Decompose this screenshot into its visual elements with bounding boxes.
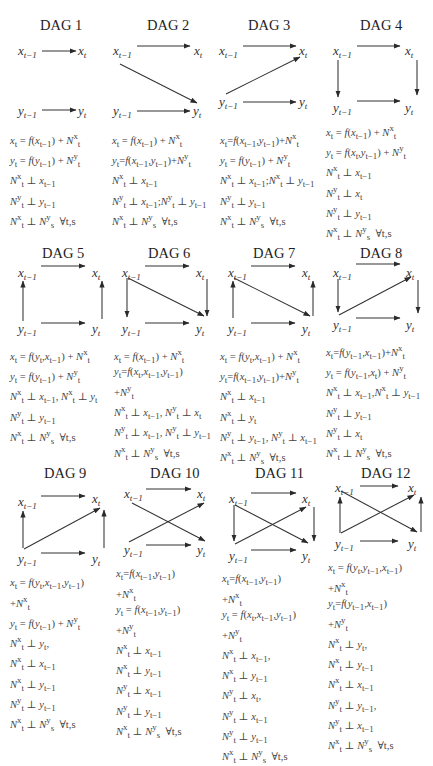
- dag-node-x-t: xt: [194, 44, 202, 60]
- equation-line: Nxt ⊥ xt−1: [10, 170, 80, 190]
- dag-title: DAG 6: [148, 245, 190, 262]
- node-subscript: t: [305, 101, 308, 111]
- dag-node-y-prev: yt−1: [333, 101, 352, 117]
- dag-node-y-prev: yt−1: [335, 537, 354, 553]
- equation-line: xt=f(xt−1,yt−1)+Nxt: [220, 130, 315, 150]
- equation-line: Nxt ⊥ yt−1: [328, 654, 402, 674]
- arrow-icon-x-prev-to-y-t: [235, 505, 308, 543]
- node-subscript: t−1: [341, 543, 354, 553]
- equation-line: xt=f(yt−1,xt−1)+Nxt: [326, 342, 420, 362]
- node-subscript: t−1: [234, 328, 247, 338]
- node-subscript: t: [98, 558, 101, 568]
- dag-title: DAG 7: [253, 245, 295, 262]
- node-subscript: t: [305, 50, 308, 60]
- equation-line: Nyt ⊥ xt−1: [222, 706, 296, 726]
- equation-line: yt=f(yt−1,xt−1): [328, 598, 402, 614]
- dag-node-x-prev: xt−1: [333, 44, 352, 60]
- dag-node-y-prev: yt−1: [18, 104, 37, 120]
- dag-node-x-t: xt: [302, 492, 310, 508]
- structural-equations: xt = f(yt,yt−1,xt−1)+Nxtyt=f(yt−1,xt−1)+…: [328, 562, 402, 755]
- equation-line: Nxt ⊥ yt−1: [116, 660, 182, 680]
- node-subscript: t−1: [339, 272, 352, 282]
- node-subscript: t: [98, 272, 101, 282]
- node-subscript: t: [308, 272, 311, 282]
- arrow-icon-x-prev-to-y-t: [120, 64, 197, 103]
- node-subscript: t−1: [119, 110, 132, 120]
- equation-line: xt = f(xt−1) + Nxt: [112, 130, 207, 150]
- dag-node-x-prev: xt−1: [124, 487, 143, 503]
- dag-node-y-t: yt: [299, 95, 307, 111]
- equation-line: xt = f(yt,xt−1) + Nxt: [10, 346, 97, 366]
- dag-title: DAG 10: [150, 465, 200, 482]
- equation-line: yt=f(xt,xt−1,yt−1): [114, 366, 211, 382]
- equation-line: yt = f(yt−1) + Nyt: [10, 366, 97, 386]
- dag-node-y-t: yt: [193, 104, 201, 120]
- dag-node-x-t: xt: [196, 266, 204, 282]
- equation-line: Nxt ⊥ Nys ∀t,s: [326, 223, 406, 243]
- node-subscript: t−1: [24, 558, 37, 568]
- dag-node-x-prev: xt−1: [18, 44, 37, 60]
- dag-node-x-t: xt: [408, 481, 416, 497]
- equation-line: Nxt ⊥ Nys ∀t,s: [10, 427, 97, 447]
- dag-title: DAG 11: [255, 465, 304, 482]
- equation-line: Nyt ⊥ yt−1, Nyt ⊥ xt−1: [220, 427, 317, 447]
- equation-line: Nyt ⊥ xt: [326, 423, 420, 443]
- equation-line: Nxt ⊥ yt−1: [222, 665, 296, 685]
- dag-node-y-prev: yt−1: [229, 549, 248, 565]
- arrow-icon-y-prev-to-x-t: [226, 57, 300, 94]
- arrow-icon-y-prev-to-x-t: [339, 277, 411, 315]
- equation-line: Nxt ⊥ Nys ∀t,s: [112, 211, 207, 231]
- dag-node-y-prev: yt−1: [228, 322, 247, 338]
- structural-equations: xt = f(yt,xt−1,yt−1)+Nxtyt = f(yt−1) + N…: [10, 577, 84, 734]
- dag-node-y-prev: yt−1: [122, 322, 141, 338]
- equation-line: Nxt ⊥ Nys ∀t,s: [222, 746, 296, 766]
- equation-line: xt = f(xt−1) + Nxt: [10, 130, 80, 150]
- dag-title: DAG 9: [44, 465, 86, 482]
- equation-line: Nxt ⊥ xt−1: [116, 640, 182, 660]
- equation-line: Nxt ⊥ yt−1: [10, 674, 84, 694]
- dag-node-y-t: yt: [302, 549, 310, 565]
- arrow-icon-x-prev-to-y-t: [234, 278, 310, 316]
- equation-line: +Nxt: [116, 584, 182, 604]
- equation-line: Nxt ⊥ Nys ∀t,s: [328, 735, 402, 755]
- structural-equations: xt=f(xt−1,yt−1)+Nxtyt = f(yt−1) + NytNxt…: [220, 130, 315, 231]
- equation-line: xt=f(xt−1,yt−1): [222, 573, 296, 589]
- equation-line: +Nyt: [222, 625, 296, 645]
- equation-line: Nyt ⊥ xt−1, Nyt ⊥ yt−1: [114, 422, 211, 442]
- equation-line: Nxt ⊥ xt−1: [220, 386, 317, 406]
- node-subscript: t: [202, 328, 205, 338]
- dag-node-x-prev: xt−1: [122, 266, 141, 282]
- equation-line: Nyt ⊥ yt−1: [116, 701, 182, 721]
- dag-node-y-t: yt: [197, 543, 205, 559]
- node-subscript: t: [414, 487, 417, 497]
- equation-line: yt = f(xt,xt−1,yt−1): [222, 609, 296, 625]
- equation-line: Nxt ⊥ xt−1,: [222, 645, 296, 665]
- structural-equations: xt = f(xt−1) + Nxtyt=f(xt−1,yt−1)+NytNxt…: [112, 130, 207, 231]
- dag-title: DAG 2: [147, 17, 189, 34]
- dag-node-x-prev: xt−1: [18, 495, 37, 511]
- node-subscript: t: [412, 272, 415, 282]
- dag-node-x-prev: xt−1: [18, 266, 37, 282]
- equation-line: Nxt ⊥ yt,: [328, 634, 402, 654]
- dag-node-x-prev: xt−1: [228, 266, 247, 282]
- dag-node-y-t: yt: [78, 104, 86, 120]
- node-subscript: t−1: [225, 101, 238, 111]
- equation-line: yt = f(yt−1) + Nyt: [220, 150, 315, 170]
- node-subscript: t: [84, 110, 87, 120]
- node-subscript: t−1: [339, 50, 352, 60]
- arrow-icon-x-prev-to-y-t: [128, 278, 204, 316]
- equation-line: Nxt ⊥ xt−1, Nxt ⊥ yt: [10, 386, 97, 406]
- equation-line: yt = f(yt−1,xt) + Nyt: [326, 362, 420, 382]
- node-subscript: t−1: [339, 107, 352, 117]
- equation-line: Nyt ⊥ xt−1: [328, 715, 402, 735]
- equation-line: Nxt ⊥ yt,: [10, 633, 84, 653]
- dag-node-x-t: xt: [299, 44, 307, 60]
- node-subscript: t−1: [341, 487, 354, 497]
- node-subscript: t−1: [128, 272, 141, 282]
- equation-line: yt = f(xt−1,yt−1): [116, 604, 182, 620]
- equation-line: Nxt ⊥ xt−1,Nxt ⊥ yt−1: [326, 382, 420, 402]
- node-subscript: t: [414, 543, 417, 553]
- node-subscript: t: [203, 493, 206, 503]
- dag-node-y-prev: yt−1: [124, 543, 143, 559]
- equation-line: +Nyt: [328, 614, 402, 634]
